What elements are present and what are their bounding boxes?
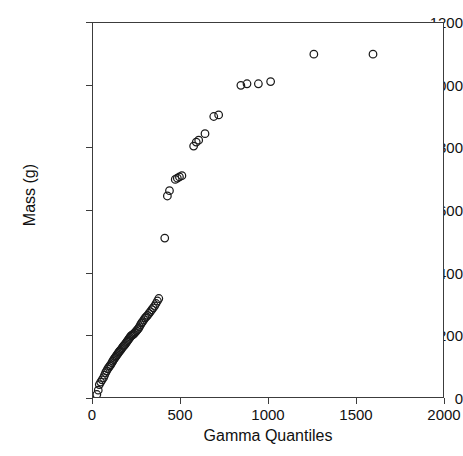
scatter-point (215, 111, 223, 119)
y-axis-title: Mass (g) (21, 125, 39, 265)
page-folio: 162 (0, 0, 52, 1)
scatter-point (195, 136, 203, 144)
x-tick-mark (356, 398, 357, 404)
scatter-point (310, 50, 318, 58)
x-tick-label: 1500 (339, 406, 372, 423)
scatter-point (210, 113, 218, 121)
scatter-point (369, 50, 377, 58)
x-axis-title: Gamma Quantiles (92, 427, 444, 445)
scatter-points-layer (93, 23, 443, 397)
scatter-point (201, 130, 209, 138)
x-tick-label: 1000 (251, 406, 284, 423)
scatter-point (255, 80, 263, 88)
x-tick-label: 2000 (427, 406, 460, 423)
plot-area (92, 22, 444, 398)
gamma-quantile-scatter-figure: 162 DATA MODELS AND STATISTICAL ANALYSIS… (0, 0, 463, 456)
running-head: 162 DATA MODELS AND STATISTICAL ANALYSIS (0, 0, 463, 11)
scatter-point (178, 172, 186, 180)
x-tick-mark (268, 398, 269, 404)
x-tick-label: 500 (167, 406, 192, 423)
scatter-point (161, 234, 169, 242)
running-head-title: DATA MODELS AND STATISTICAL ANALYSIS (52, 0, 463, 1)
x-tick-mark (180, 398, 181, 404)
x-tick-mark (444, 398, 445, 404)
scatter-point (267, 78, 275, 86)
x-tick-mark (92, 398, 93, 404)
x-tick-label: 0 (88, 406, 96, 423)
